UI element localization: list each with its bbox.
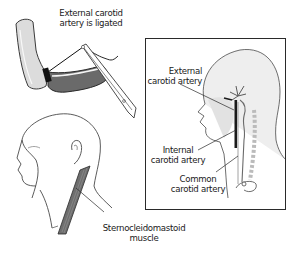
label-common-carotid: Common carotid artery (168, 174, 228, 194)
label-line: External (146, 66, 202, 76)
label-line: Common (168, 174, 228, 184)
caption-line: artery is ligated (56, 18, 126, 28)
label-external-carotid: External carotid artery (146, 66, 202, 86)
caption-line: Sternocleidomastoid (102, 223, 186, 233)
label-line: Internal (150, 145, 206, 155)
label-line: carotid artery (168, 184, 228, 194)
vessel-stub (16, 19, 48, 89)
sternocleidomastoid-caption: Sternocleidomastoid muscle (102, 223, 186, 243)
external-carotid-artery-segment (48, 66, 107, 92)
caption-line: External carotid (56, 8, 126, 18)
caption-line: muscle (102, 233, 186, 243)
head-outline (22, 114, 112, 208)
sternocleidomastoid-muscle (58, 166, 90, 234)
ligation-caption: External carotid artery is ligated (56, 8, 126, 28)
label-internal-carotid: Internal carotid artery (150, 145, 206, 165)
label-line: carotid artery (150, 155, 206, 165)
ligation-illustration (16, 19, 136, 118)
muscle-pointer-line (76, 188, 104, 212)
neck-profile-illustration (17, 114, 112, 234)
label-line: carotid artery (146, 76, 202, 86)
ear (72, 140, 82, 164)
